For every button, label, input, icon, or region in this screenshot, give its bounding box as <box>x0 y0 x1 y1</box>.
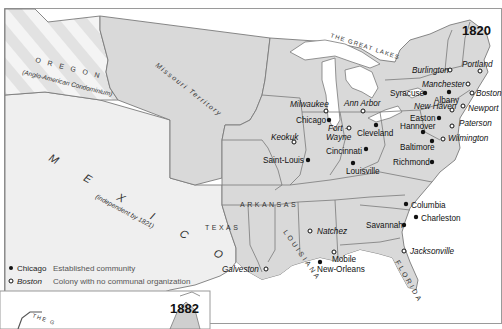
city-jacksonville: Jacksonville <box>409 247 455 256</box>
marker-boston[interactable] <box>470 91 474 95</box>
city-chicago: Chicago <box>296 116 326 125</box>
city-syracuse: Syracuse <box>390 89 425 98</box>
marker-saint-louis[interactable] <box>306 158 310 162</box>
marker-new-orleans[interactable] <box>318 260 322 264</box>
city-boston: Boston <box>476 89 502 98</box>
city-keokuk: Keokuk <box>271 133 299 142</box>
marker-charleston[interactable] <box>414 215 418 219</box>
marker-new-haven[interactable] <box>450 108 454 112</box>
legend-colony-icon <box>9 279 13 283</box>
arkansas-label: ARKANSAS <box>240 201 298 208</box>
legend-established-description: Established community <box>53 264 135 273</box>
city-galveston: Galveston <box>222 265 259 274</box>
marker-easton[interactable] <box>437 116 441 120</box>
city-louisville: Louisville <box>346 167 380 176</box>
marker-paterson[interactable] <box>450 124 454 128</box>
marker-newport[interactable] <box>461 104 465 108</box>
marker-columbia[interactable] <box>404 202 408 206</box>
marker-fort-wayne[interactable] <box>347 126 351 130</box>
marker-wilmington[interactable] <box>441 137 445 141</box>
marker-chicago[interactable] <box>327 118 331 122</box>
legend-colony-description: Colony with no communal organization <box>53 277 190 286</box>
marker-jacksonville[interactable] <box>402 249 406 253</box>
city-richmond: Richmond <box>393 158 430 167</box>
city-portland: Portland <box>462 60 493 69</box>
year-1882-label: 1882 <box>170 301 199 316</box>
legend-established-sample: Chicago <box>17 264 47 273</box>
city-savannah: Savannah <box>366 221 403 230</box>
legend-established-icon <box>9 266 13 270</box>
city-hannover: Hannover <box>400 122 436 131</box>
city-natchez: Natchez <box>317 227 347 236</box>
city-cleveland: Cleveland <box>357 129 394 138</box>
inset-map-1882: 1882 THE G <box>0 291 210 329</box>
city-burlington: Burlington <box>412 66 449 75</box>
city-fort-wayne-2: Wayne <box>326 133 352 142</box>
legend-colony-sample: Boston <box>17 277 42 286</box>
marker-cincinnati[interactable] <box>364 147 368 151</box>
marker-richmond[interactable] <box>430 160 434 164</box>
marker-louisville[interactable] <box>351 161 355 165</box>
city-cincinnati: Cincinnati <box>326 147 362 156</box>
year-1820-label: 1820 <box>462 23 491 38</box>
city-new-orleans: New-Orleans <box>317 265 365 274</box>
city-columbia: Columbia <box>411 201 446 210</box>
marker-mobile[interactable] <box>332 250 336 254</box>
city-paterson: Paterson <box>459 119 492 128</box>
marker-albany[interactable] <box>447 90 451 94</box>
city-wilmington: Wilmington <box>448 134 489 143</box>
texas-label: TEXAS <box>205 224 240 231</box>
city-milwaukee: Milwaukee <box>290 100 329 109</box>
city-ann-arbor: Ann Arbor <box>343 99 381 108</box>
city-saint-louis: Saint-Louis <box>263 156 304 165</box>
marker-galveston[interactable] <box>264 267 268 271</box>
city-baltimore: Baltimore <box>400 143 435 152</box>
city-fort-wayne: Fort - <box>328 124 348 133</box>
city-manchester: Manchester <box>422 80 465 89</box>
city-mobile: Mobile <box>332 255 357 264</box>
marker-cleveland[interactable] <box>374 123 378 127</box>
marker-natchez[interactable] <box>308 229 312 233</box>
marker-manchester[interactable] <box>466 82 470 86</box>
marker-ann-arbor[interactable] <box>361 109 365 113</box>
city-charleston: Charleston <box>421 214 461 223</box>
marker-portland[interactable] <box>478 69 482 73</box>
map-canvas: 1820 O R E G O N (Anglo-American Condomi… <box>0 0 502 329</box>
marker-milwaukee[interactable] <box>324 109 328 113</box>
city-newport: Newport <box>468 104 499 113</box>
